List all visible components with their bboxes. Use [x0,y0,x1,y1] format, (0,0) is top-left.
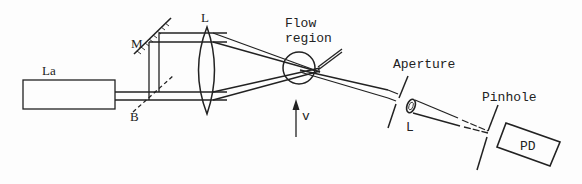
pinhole-upper [488,105,498,131]
laser-body [23,80,115,109]
outgoing-beam-up-2 [318,52,342,70]
aperture-label: Aperture [393,58,455,71]
photodetector-label: PD [520,140,536,153]
velocity-label: v [302,110,310,123]
laser-label: La [42,64,56,77]
focusing-lens [199,27,215,114]
converging-beam-1b [213,42,320,72]
collected-beam-2 [413,113,460,126]
focusing-lens-label: L [201,11,209,24]
aperture-upper [399,76,408,98]
pinhole-label: Pinhole [482,91,537,104]
converging-beam-2a [213,68,320,92]
outgoing-beam-up-1 [318,49,342,67]
mirror-label: M [131,37,143,50]
velocity-arrow-head [293,99,300,110]
collecting-lens-label: L [406,121,414,134]
pinhole-lower [477,137,487,170]
aperture-lower [388,104,396,128]
converging-beam-2b [213,71,320,100]
beamsplitter [133,75,174,112]
scattered-beam-1 [300,70,388,90]
scattered-beam-1b [388,90,398,94]
scattered-beam-2b [388,98,396,101]
flow-region-label-line2: region [285,32,332,45]
flow-region-label-line1: Flow [285,17,316,30]
optical-setup-diagram: La M B L Flow region v Aperture L Pinhol… [0,0,582,184]
beamsplitter-label: B [130,110,139,123]
